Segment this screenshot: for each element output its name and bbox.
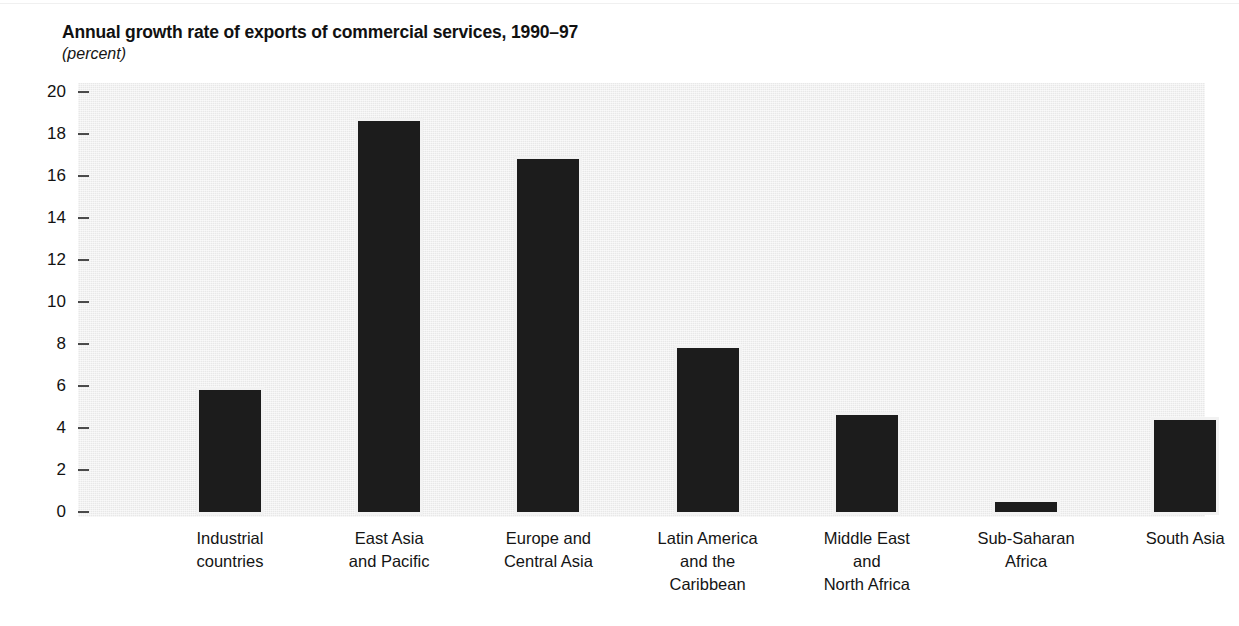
- y-axis-tick-label: 6: [24, 377, 66, 394]
- y-axis-tick: [78, 259, 89, 261]
- y-axis-tick-label: 2: [24, 461, 66, 478]
- y-axis-tick: [78, 91, 89, 93]
- bar: [199, 390, 261, 512]
- x-axis-category-label: Middle EastandNorth Africa: [777, 527, 957, 596]
- bar: [995, 502, 1057, 513]
- y-axis-tick-label: 14: [24, 209, 66, 226]
- y-axis-tick: [78, 385, 89, 387]
- bar: [358, 121, 420, 512]
- y-axis-tick: [78, 133, 89, 135]
- bar: [836, 415, 898, 512]
- y-axis-tick: [78, 427, 89, 429]
- chart-title-block: Annual growth rate of exports of commerc…: [62, 22, 962, 63]
- y-axis-tick: [78, 175, 89, 177]
- x-axis-category-label: Europe andCentral Asia: [458, 527, 638, 573]
- y-axis-labels: 20181614121086420: [18, 83, 66, 517]
- x-axis-category-label: East Asiaand Pacific: [299, 527, 479, 573]
- x-axis-category-labels: IndustrialcountriesEast Asiaand PacificE…: [78, 527, 1205, 622]
- y-axis-tick: [78, 301, 89, 303]
- y-axis-tick: [78, 511, 89, 513]
- y-axis-tick: [78, 469, 89, 471]
- x-axis-label-line: and: [777, 550, 957, 573]
- bar: [517, 159, 579, 512]
- y-axis-tick-label: 16: [24, 167, 66, 184]
- y-axis-tick-label: 20: [24, 83, 66, 100]
- y-axis-tick-label: 18: [24, 125, 66, 142]
- y-axis-tick-label: 4: [24, 419, 66, 436]
- y-axis-tick-label: 12: [24, 251, 66, 268]
- x-axis-label-line: Europe and: [458, 527, 638, 550]
- x-axis-category-label: Latin Americaand theCaribbean: [618, 527, 798, 596]
- y-axis-tick-label: 0: [24, 503, 66, 520]
- bar: [1154, 420, 1216, 512]
- x-axis-category-label: South Asia: [1095, 527, 1239, 550]
- x-axis-label-line: and the: [618, 550, 798, 573]
- x-axis-label-line: Caribbean: [618, 573, 798, 596]
- y-axis-tick: [78, 217, 89, 219]
- x-axis-label-line: North Africa: [777, 573, 957, 596]
- x-axis-label-line: and Pacific: [299, 550, 479, 573]
- plot-area: [78, 83, 1205, 517]
- x-axis-label-line: Africa: [936, 550, 1116, 573]
- x-axis-label-line: Sub-Saharan: [936, 527, 1116, 550]
- y-axis-tick-label: 8: [24, 335, 66, 352]
- x-axis-label-line: East Asia: [299, 527, 479, 550]
- bar: [677, 348, 739, 512]
- x-axis-category-label: Industrialcountries: [140, 527, 320, 573]
- x-axis-label-line: Latin America: [618, 527, 798, 550]
- y-axis-tick-label: 10: [24, 293, 66, 310]
- y-axis-tick: [78, 343, 89, 345]
- x-axis-label-line: Middle East: [777, 527, 957, 550]
- bar-chart-figure: Annual growth rate of exports of commerc…: [0, 0, 1239, 626]
- x-axis-category-label: Sub-SaharanAfrica: [936, 527, 1116, 573]
- plot-inner: [78, 83, 1205, 517]
- x-axis-label-line: Central Asia: [458, 550, 638, 573]
- x-axis-label-line: Industrial: [140, 527, 320, 550]
- chart-title: Annual growth rate of exports of commerc…: [62, 22, 962, 42]
- x-axis-label-line: countries: [140, 550, 320, 573]
- chart-subtitle-units: (percent): [62, 44, 962, 63]
- x-axis-label-line: South Asia: [1095, 527, 1239, 550]
